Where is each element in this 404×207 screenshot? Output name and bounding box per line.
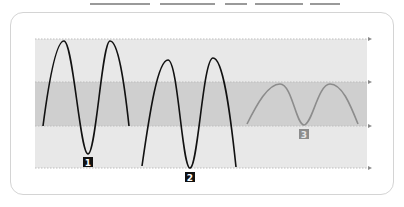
label-1: 1 [83,157,93,168]
guide-arrow-icons [368,37,372,170]
svg-text:1: 1 [85,158,91,168]
svg-text:3: 3 [301,130,307,140]
label-2: 2 [185,172,195,183]
wave-diagram: 1 2 3 [0,0,404,207]
svg-text:2: 2 [187,173,193,183]
middle-band [35,82,367,126]
label-3: 3 [299,129,309,140]
